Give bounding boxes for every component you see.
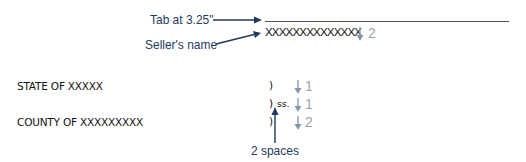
spaces-callout-label: 2 spaces <box>251 143 299 158</box>
up-arrow-icon <box>0 0 526 162</box>
